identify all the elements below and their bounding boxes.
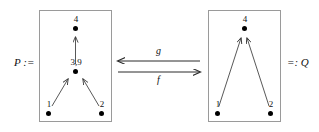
node-q-right — [268, 111, 273, 116]
right-side-label: =: Q — [287, 57, 309, 68]
node-label-p-mid: 3,9 — [65, 58, 87, 67]
node-p-mid — [73, 69, 78, 74]
node-q-top — [242, 26, 247, 31]
node-q-left — [215, 111, 220, 116]
map-label-g: g — [156, 46, 161, 56]
node-label-q-right: 2 — [261, 100, 281, 109]
node-p-top — [73, 26, 78, 31]
node-label-q-left: 1 — [208, 100, 228, 109]
node-p-left — [46, 111, 51, 116]
node-label-p-right: 2 — [92, 100, 112, 109]
node-label-p-top: 4 — [66, 15, 86, 24]
diagram-canvas: P := =: Q 4 3,9 1 2 4 1 2 g f — [0, 0, 319, 132]
left-side-label: P := — [14, 57, 34, 68]
node-label-p-left: 1 — [39, 100, 59, 109]
node-label-q-top: 4 — [235, 15, 255, 24]
node-p-right — [99, 111, 104, 116]
map-label-f: f — [157, 75, 160, 85]
